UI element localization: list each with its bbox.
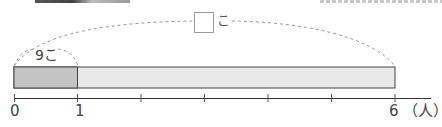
part-arc-right — [58, 49, 78, 66]
tick-label-6: 6 — [389, 104, 399, 119]
bar-shaded — [14, 67, 78, 88]
part-arc — [14, 49, 34, 66]
answer-blank-box[interactable] — [194, 12, 214, 33]
total-arc-right — [232, 21, 395, 66]
tick-label-1: 1 — [75, 104, 85, 119]
total-unit-label: こ — [217, 14, 230, 27]
part-value-label: 9こ — [35, 48, 58, 62]
tape-diagram: こ 9こ 0 1 6 （人） — [0, 0, 442, 127]
axis-unit-label: （人） — [403, 104, 442, 119]
tick-label-0: 0 — [10, 104, 20, 119]
